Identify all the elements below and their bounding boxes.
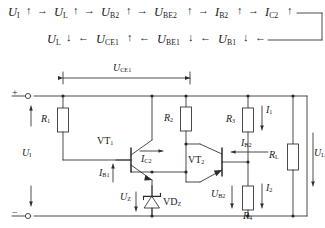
label-uz: UZ (120, 192, 131, 203)
label-ul: UL (314, 148, 325, 159)
r3-body (243, 108, 254, 132)
vt2-collector-node (184, 142, 187, 145)
label-r2: R2 (164, 113, 173, 124)
label-r4: R4 (243, 211, 252, 222)
label-r4-sub: 4 (249, 214, 252, 221)
label-i2-sub: 2 (269, 186, 272, 193)
label-vt2: VT2 (188, 155, 204, 166)
label-ul-sub: L (321, 151, 325, 158)
label-ib2-sub: B2 (244, 141, 251, 148)
label-i1: I1 (266, 105, 272, 116)
neg-terminal-dot (25, 213, 30, 218)
label-r3: R3 (226, 114, 235, 125)
vt2-emitter-arrow (214, 170, 222, 176)
r2-body (181, 107, 192, 131)
label-ib1: IB1 (99, 168, 110, 179)
r1-top-node (61, 94, 64, 97)
terminal-positive-label: + (12, 88, 18, 98)
label-r1: R1 (41, 114, 50, 125)
rl-bottom-node (291, 214, 294, 217)
label-input-voltage: UI (22, 148, 31, 159)
r2-top-node (184, 94, 187, 97)
label-input-voltage-sub: I (29, 151, 31, 158)
label-vt2-sub: 2 (201, 158, 204, 165)
label-vt1-sub: 1 (110, 139, 113, 146)
label-vt1: VT1 (97, 136, 113, 147)
rl-top-node (291, 94, 294, 97)
divider-tap-node (246, 160, 249, 163)
pos-terminal-dot (25, 93, 30, 98)
zener-bottom-node (150, 214, 153, 217)
r3-top-node (246, 94, 249, 97)
label-uce1-sub: CE1 (120, 66, 131, 73)
label-rl-sub: L (275, 153, 279, 160)
terminal-negative-label: − (12, 208, 18, 218)
label-ic2: IC2 (141, 154, 152, 165)
r4-body (243, 186, 254, 210)
label-uz-sub: Z (127, 195, 131, 202)
label-rl: RL (269, 150, 279, 161)
label-ib2: IB2 (241, 138, 252, 149)
label-r2-sub: 2 (170, 116, 173, 123)
label-zener-diode: VDZ (163, 197, 181, 208)
label-uce1: UCE1 (113, 63, 131, 74)
label-ib1-sub: B1 (102, 171, 109, 178)
figure-canvas: UI ↑ → UL ↑ → UB2 ↑ → UBE2 ↑ → IB2 ↑ → I… (0, 0, 325, 228)
vt1-collector-node (150, 94, 153, 97)
label-ic2-sub: C2 (144, 157, 151, 164)
vt1-emitter-arrow (144, 175, 152, 181)
label-i2: I2 (266, 183, 272, 194)
label-zener-diode-sub: Z (177, 200, 181, 207)
ic2-node (150, 170, 153, 173)
rl-body (288, 144, 299, 170)
label-r1-sub: 1 (47, 117, 50, 124)
r1-body (58, 108, 69, 132)
zener-triangle (145, 197, 160, 209)
label-ub2: UB2 (211, 189, 225, 200)
label-i1-sub: 1 (269, 108, 272, 115)
label-ub2-sub: B2 (218, 192, 225, 199)
label-r3-sub: 3 (232, 117, 235, 124)
vt2-collector-lead (200, 144, 222, 154)
